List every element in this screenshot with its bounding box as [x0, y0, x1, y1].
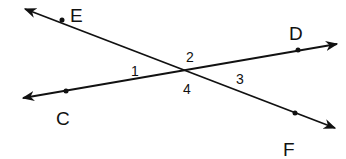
angle-1-label: 1 [131, 63, 139, 79]
point-c-label: C [56, 108, 70, 129]
angle-3-label: 3 [236, 71, 244, 87]
angle-4-label: 4 [183, 81, 191, 97]
intersecting-lines-diagram: E D C F 1 2 3 4 [0, 0, 346, 159]
angle-2-label: 2 [186, 49, 194, 65]
point-d-dot [296, 48, 301, 53]
point-e-label: E [70, 5, 83, 26]
point-e-dot [60, 18, 65, 23]
point-f-dot [293, 111, 298, 116]
point-d-label: D [289, 23, 303, 44]
point-c-dot [64, 89, 69, 94]
point-f-label: F [283, 139, 295, 159]
line-cd [23, 44, 337, 98]
